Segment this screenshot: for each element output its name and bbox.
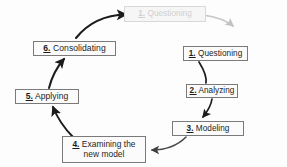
node-ordinal: 5. bbox=[26, 91, 33, 101]
node-questioning-label: 1. Questioning bbox=[189, 49, 243, 59]
node-ordinal: 3. bbox=[187, 124, 194, 133]
arrow-questioning-to-analyzing bbox=[199, 62, 206, 83]
node-ordinal: 6. bbox=[43, 43, 50, 53]
node-restart-questioning-label: 1. Questioning bbox=[138, 9, 192, 19]
node-questioning[interactable]: 1. Questioning bbox=[183, 46, 248, 61]
arrow-modeling-to-examining bbox=[152, 137, 186, 150]
node-examining-new-model[interactable]: 4. Examining the new model bbox=[62, 136, 146, 163]
node-ordinal: 1. bbox=[189, 49, 196, 58]
node-ordinal: 4. bbox=[72, 139, 79, 149]
node-consolidating[interactable]: 6. Consolidating bbox=[33, 41, 116, 56]
node-analyzing-label: 2. Analyzing bbox=[190, 86, 235, 96]
arrow-consolidating-to-restart bbox=[76, 15, 126, 39]
arrow-restart-outgoing bbox=[203, 15, 233, 26]
node-ordinal: 1. bbox=[138, 9, 145, 18]
arrow-examining-to-applying bbox=[53, 107, 73, 137]
node-analyzing[interactable]: 2. Analyzing bbox=[186, 84, 238, 98]
node-consolidating-label: 6. Consolidating bbox=[43, 43, 105, 53]
node-modeling[interactable]: 3. Modeling bbox=[172, 121, 244, 136]
node-applying[interactable]: 5. Applying bbox=[15, 89, 79, 104]
arrow-analyzing-to-modeling bbox=[203, 99, 212, 117]
node-ordinal: 2. bbox=[190, 86, 197, 95]
node-modeling-label: 3. Modeling bbox=[187, 124, 230, 134]
arrow-applying-to-consolidating bbox=[49, 59, 64, 88]
node-examining-new-model-label: 4. Examining the new model bbox=[65, 140, 143, 160]
node-restart-questioning[interactable]: 1. Questioning bbox=[124, 6, 206, 22]
cycle-diagram: 1. Questioning 1. Questioning 2. Analyzi… bbox=[0, 0, 287, 167]
node-applying-label: 5. Applying bbox=[26, 91, 69, 101]
